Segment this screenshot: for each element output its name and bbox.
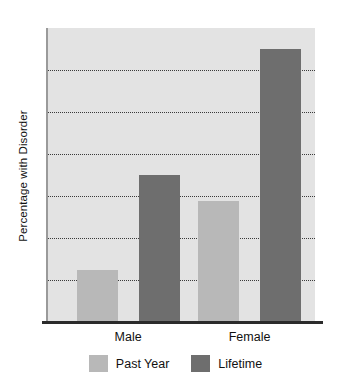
bar-chart: Percentage with Disorder 01234567 MaleFe… <box>0 0 351 387</box>
plot-area <box>48 28 315 322</box>
legend-swatch-icon <box>89 355 108 372</box>
legend-label: Past Year <box>116 357 170 371</box>
legend-item-lifetime[interactable]: Lifetime <box>191 355 262 372</box>
legend-swatch-icon <box>191 355 210 372</box>
bar-female-lifetime <box>260 49 301 322</box>
bar-male-past-year <box>77 270 118 323</box>
bar-female-past-year <box>198 201 239 322</box>
bar-male-lifetime <box>139 175 180 322</box>
legend-item-past-year[interactable]: Past Year <box>89 355 170 372</box>
chart-legend: Past YearLifetime <box>0 355 351 372</box>
x-axis-label-female: Female <box>200 330 300 344</box>
x-axis-line <box>42 321 323 324</box>
legend-label: Lifetime <box>218 357 262 371</box>
x-axis-label-male: Male <box>78 330 178 344</box>
